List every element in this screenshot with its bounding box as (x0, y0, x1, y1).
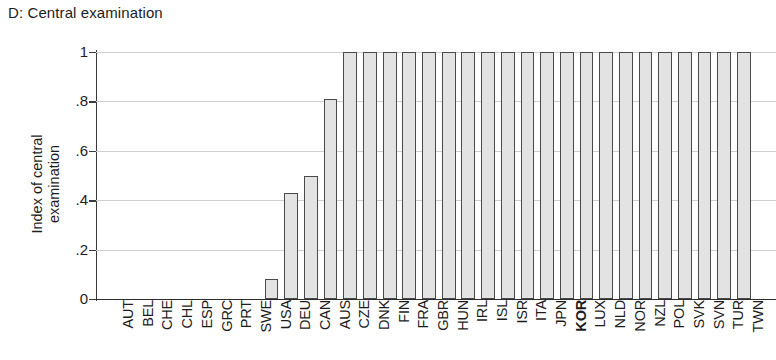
gridline (96, 200, 776, 201)
x-label-usa: USA (278, 300, 294, 358)
gridline (96, 250, 776, 251)
x-label-pol: POL (671, 300, 687, 358)
panel-title: D: Central examination (8, 4, 163, 21)
bar-twn (737, 52, 751, 299)
x-label-aus: AUS (337, 300, 353, 358)
x-label-can: CAN (317, 300, 333, 358)
x-label-nzl: NZL (652, 300, 668, 358)
y-tick-label: .6 (28, 143, 88, 158)
chart-figure: D: Central examination Index of central … (0, 0, 776, 360)
bar-lux (580, 52, 594, 299)
y-tick-mark (89, 151, 96, 152)
x-label-gbr: GBR (435, 300, 451, 358)
y-tick-mark (89, 52, 96, 53)
y-tick-mark (89, 299, 96, 300)
x-label-esp: ESP (199, 300, 215, 358)
x-label-fin: FIN (396, 300, 412, 358)
y-tick-mark (89, 200, 96, 201)
bar-kor (560, 52, 574, 299)
y-tick-label: 0 (28, 291, 88, 306)
x-label-irl: IRL (474, 300, 490, 358)
x-label-nor: NOR (632, 300, 648, 358)
x-label-svn: SVN (711, 300, 727, 358)
bar-hun (442, 52, 456, 299)
y-tick-label: .8 (28, 93, 88, 108)
bar-fra (402, 52, 416, 299)
gridline (96, 151, 776, 152)
x-label-tur: TUR (730, 300, 746, 358)
bar-fin (383, 52, 397, 299)
x-label-aut: AUT (120, 300, 136, 358)
bar-can (304, 176, 318, 300)
bar-usa (265, 279, 279, 299)
x-label-kor: KOR (573, 300, 589, 358)
bar-pol (658, 52, 672, 299)
x-label-isr: ISR (514, 300, 530, 358)
x-label-deu: DEU (297, 300, 313, 358)
x-label-chl: CHL (179, 300, 195, 358)
x-label-prt: PRT (238, 300, 254, 358)
y-tick-mark (89, 101, 96, 102)
plot-area (96, 52, 776, 299)
gridline (96, 101, 776, 102)
bar-nor (619, 52, 633, 299)
bar-isr (501, 52, 515, 299)
bar-nld (599, 52, 613, 299)
x-label-isl: ISL (494, 300, 510, 358)
x-label-jpn: JPN (553, 300, 569, 358)
bar-deu (284, 193, 298, 299)
bar-cze (343, 52, 357, 299)
gridline (96, 52, 776, 53)
x-label-svk: SVK (691, 300, 707, 358)
bar-jpn (540, 52, 554, 299)
x-label-grc: GRC (219, 300, 235, 358)
x-label-che: CHE (159, 300, 175, 358)
bar-tur (717, 52, 731, 299)
bar-svn (698, 52, 712, 299)
bar-isl (481, 52, 495, 299)
x-axis-labels: AUTBELCHECHLESPGRCPRTSWEUSADEUCANAUSCZED… (96, 302, 776, 360)
x-label-ita: ITA (533, 300, 549, 358)
x-label-hun: HUN (455, 300, 471, 358)
x-label-fra: FRA (415, 300, 431, 358)
x-label-twn: TWN (750, 300, 766, 358)
bar-dnk (363, 52, 377, 299)
bar-irl (461, 52, 475, 299)
bar-ita (521, 52, 535, 299)
bar-gbr (422, 52, 436, 299)
x-label-nld: NLD (612, 300, 628, 358)
x-label-lux: LUX (592, 300, 608, 358)
bar-aus (324, 99, 338, 299)
y-tick-mark (89, 250, 96, 251)
y-tick-label: .2 (28, 242, 88, 257)
x-label-dnk: DNK (376, 300, 392, 358)
x-label-swe: SWE (258, 300, 274, 358)
y-tick-label: 1 (28, 44, 88, 59)
bar-nzl (639, 52, 653, 299)
x-label-cze: CZE (356, 300, 372, 358)
y-tick-label: .4 (28, 192, 88, 207)
x-label-bel: BEL (140, 300, 156, 358)
bar-svk (678, 52, 692, 299)
